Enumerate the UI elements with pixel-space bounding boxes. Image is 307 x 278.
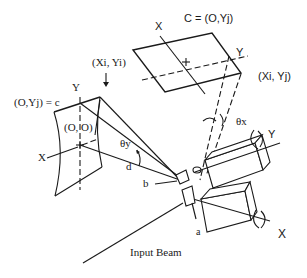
theta-y-label: θy [120, 137, 131, 149]
theta-x-label: θx [236, 115, 247, 127]
y-scan-motor [193, 130, 280, 188]
mirror-a [182, 186, 196, 219]
left-corner-label: (O,Yj) = c [14, 96, 60, 109]
motor-x-axis-label: X [278, 227, 286, 241]
top-projection-plane [133, 33, 248, 94]
left-x-axis-label: X [38, 151, 46, 163]
point-arrow [103, 73, 109, 87]
input-beam-label: Input Beam [130, 246, 182, 258]
curved-left-screen [47, 97, 102, 196]
top-y-axis-label: Y [236, 46, 244, 58]
mirror-b-label: b [143, 177, 149, 189]
scanner-diagram: C = (O,Yj) X Y (Xi, Yj) (O,Yj) = c Y (O,… [0, 0, 307, 278]
left-point-label: (Xi, Yi) [92, 56, 126, 69]
motor-y-axis-label: Y [268, 128, 276, 140]
distance-d-label: d [126, 160, 132, 172]
top-x-axis-label: X [155, 20, 163, 32]
left-y-axis-label: Y [72, 81, 80, 93]
diagram-canvas: C = (O,Yj) X Y (Xi, Yj) (O,Yj) = c Y (O,… [0, 0, 307, 278]
top-corner-label: C = (O,Yj) [184, 12, 233, 24]
left-origin-label: (O, O) [64, 121, 93, 134]
top-point-label: (Xi, Yj) [258, 70, 291, 82]
x-scan-motor [193, 182, 270, 232]
mirror-a-label: a [196, 226, 201, 237]
